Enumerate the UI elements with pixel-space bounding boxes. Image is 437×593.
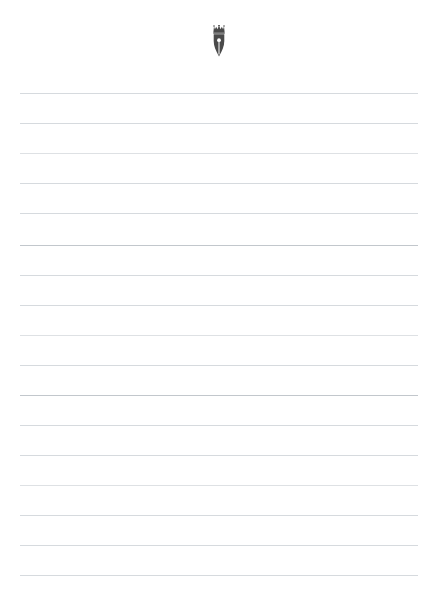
rule-line xyxy=(20,213,418,214)
ruled-lines-area xyxy=(0,0,437,593)
rule-line xyxy=(20,395,418,396)
rule-line xyxy=(20,275,418,276)
rule-line xyxy=(20,335,418,336)
rule-line xyxy=(20,485,418,486)
rule-line xyxy=(20,575,418,576)
rule-line xyxy=(20,153,418,154)
rule-line xyxy=(20,545,418,546)
rule-line xyxy=(20,455,418,456)
rule-line xyxy=(20,245,418,246)
rule-line xyxy=(20,365,418,366)
rule-line xyxy=(20,123,418,124)
lined-paper-page xyxy=(0,0,437,593)
rule-line xyxy=(20,305,418,306)
rule-line xyxy=(20,93,418,94)
rule-line xyxy=(20,515,418,516)
rule-line xyxy=(20,425,418,426)
rule-line xyxy=(20,183,418,184)
